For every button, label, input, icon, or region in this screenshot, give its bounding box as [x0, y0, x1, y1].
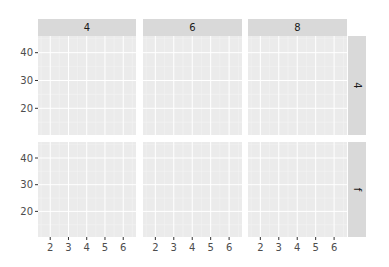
col-strip-label: 4: [84, 22, 90, 33]
x-tick-label: 6: [226, 242, 232, 253]
faceted-plot: 4684f203040203040234562345623456: [0, 0, 389, 267]
x-tick-label: 5: [102, 242, 108, 253]
x-axis-col-6: 23456: [152, 237, 232, 253]
row-strip-4: 4: [348, 36, 366, 135]
col-strip-4: 4: [38, 19, 136, 36]
row-strip-f: f: [348, 142, 366, 237]
y-axis-row-4: 203040: [20, 47, 38, 114]
row-strip-label: 4: [352, 82, 363, 88]
x-tick-label: 5: [312, 242, 318, 253]
x-tick-label: 2: [152, 242, 158, 253]
x-tick-label: 4: [294, 242, 300, 253]
x-tick-label: 6: [331, 242, 337, 253]
x-tick-label: 6: [120, 242, 126, 253]
x-tick-label: 3: [171, 242, 177, 253]
col-strip-label: 8: [294, 22, 300, 33]
y-tick-label: 20: [20, 206, 33, 217]
y-tick-label: 30: [20, 75, 33, 86]
col-strip-label: 6: [189, 22, 195, 33]
x-tick-label: 2: [47, 242, 53, 253]
y-tick-label: 40: [20, 153, 33, 164]
x-tick-label: 3: [276, 242, 282, 253]
x-axis-col-8: 23456: [257, 237, 337, 253]
x-axis-col-4: 23456: [47, 237, 126, 253]
x-tick-label: 5: [207, 242, 213, 253]
y-tick-label: 20: [20, 103, 33, 114]
x-tick-label: 3: [65, 242, 71, 253]
x-tick-label: 2: [257, 242, 263, 253]
y-tick-label: 30: [20, 179, 33, 190]
panel-f-6: [143, 142, 242, 237]
col-strip-8: 8: [248, 19, 347, 36]
y-tick-label: 40: [20, 47, 33, 58]
y-axis-row-f: 203040: [20, 153, 38, 217]
row-strip-label: f: [352, 188, 363, 192]
panel-4-4: [38, 36, 136, 135]
panel-4-8: [248, 36, 347, 135]
panel-f-8: [248, 142, 347, 237]
panel-f-4: [38, 142, 136, 237]
x-tick-label: 4: [189, 242, 195, 253]
x-tick-label: 4: [84, 242, 90, 253]
panel-4-6: [143, 36, 242, 135]
col-strip-6: 6: [143, 19, 242, 36]
